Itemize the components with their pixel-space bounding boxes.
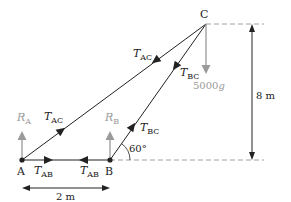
arrow-tac-lower-icon (56, 124, 68, 136)
label-weight: 5000g (193, 80, 225, 91)
arrow-tab-right-icon (79, 156, 88, 164)
reaction-ra-arrow-icon (18, 131, 27, 140)
arrow-tab-left-icon (44, 156, 53, 164)
label-vertical-dimension: 8 m (256, 90, 276, 101)
truss-diagram: C A B TAC TBC 5000g 8 m RA TAC RB TBC 60… (0, 0, 291, 202)
label-angle: 60° (129, 143, 147, 154)
label-horizontal-dimension: 2 m (56, 191, 76, 202)
label-tbc-upper: TBC (180, 66, 200, 81)
horizontal-dim-left-arrow-icon (22, 185, 30, 191)
label-rb: RB (104, 111, 119, 126)
label-a: A (16, 165, 26, 178)
label-tab-left: TAB (34, 164, 53, 179)
joint-b (107, 157, 112, 162)
label-tbc-lower: TBC (140, 121, 160, 136)
label-tab-right: TAB (80, 164, 99, 179)
weight-arrow-icon (202, 65, 211, 74)
label-ra: RA (16, 111, 31, 126)
label-b: B (105, 165, 113, 178)
label-tac-upper: TAC (133, 47, 152, 62)
label-tac-lower: TAC (44, 110, 63, 125)
vertical-dim-down-arrow-icon (249, 152, 255, 160)
vertical-dim-up-arrow-icon (249, 24, 255, 32)
diagram-canvas: C A B TAC TBC 5000g 8 m RA TAC RB TBC 60… (0, 0, 291, 202)
label-c: C (200, 8, 208, 21)
horizontal-dim-right-arrow-icon (102, 185, 110, 191)
joint-a (19, 157, 24, 162)
member-bc (110, 24, 206, 160)
reaction-rb-arrow-icon (106, 131, 115, 140)
